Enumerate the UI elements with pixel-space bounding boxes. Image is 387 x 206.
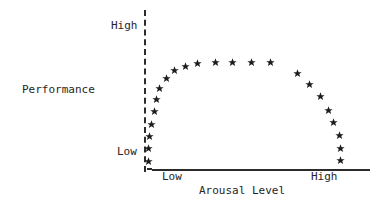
data-point-star [316, 92, 325, 101]
data-point-star [147, 120, 156, 129]
data-point-star [324, 106, 333, 115]
data-point-star [305, 80, 314, 89]
data-point-star [335, 131, 344, 140]
data-point-star [181, 62, 190, 71]
data-point-star [336, 156, 345, 165]
data-point-star [145, 132, 154, 141]
data-point-star [144, 144, 153, 153]
data-point-star [152, 95, 161, 104]
data-point-star [247, 58, 256, 67]
data-point-star [162, 74, 171, 83]
data-point-star [329, 118, 338, 127]
data-point-star [193, 59, 202, 68]
yerkes-dodson-chart: Performance High Low Low High Arousal Le… [0, 0, 387, 206]
data-point-star [150, 107, 159, 116]
data-series-layer [0, 0, 387, 206]
data-point-star [336, 144, 345, 153]
data-point-star [170, 66, 179, 75]
data-point-star [144, 157, 153, 166]
data-point-star [228, 58, 237, 67]
data-point-star [266, 58, 275, 67]
data-point-star [293, 69, 302, 78]
data-point-star [211, 58, 220, 67]
data-point-star [155, 84, 164, 93]
